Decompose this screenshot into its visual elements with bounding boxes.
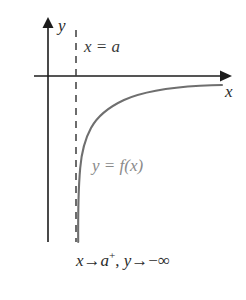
y-axis-label: y (58, 17, 66, 34)
x-axis-arrowhead (220, 71, 232, 82)
caption-a-target: a (100, 251, 109, 270)
x-axis-label: x (225, 83, 233, 100)
caption-arrow-1: → (83, 251, 100, 270)
caption-arrow-2: → (131, 251, 148, 270)
limit-caption: x→a+, y→−∞ (0, 252, 246, 269)
y-axis-arrowhead (43, 17, 54, 28)
curve-label: y = f(x) (92, 157, 143, 174)
caption-comma: , (115, 251, 119, 270)
asymptote-label: x = a (84, 38, 120, 55)
limit-asymptote-figure: y x x = a y = f(x) x→a+, y→−∞ (0, 0, 246, 300)
caption-neg-infinity: −∞ (148, 251, 170, 270)
